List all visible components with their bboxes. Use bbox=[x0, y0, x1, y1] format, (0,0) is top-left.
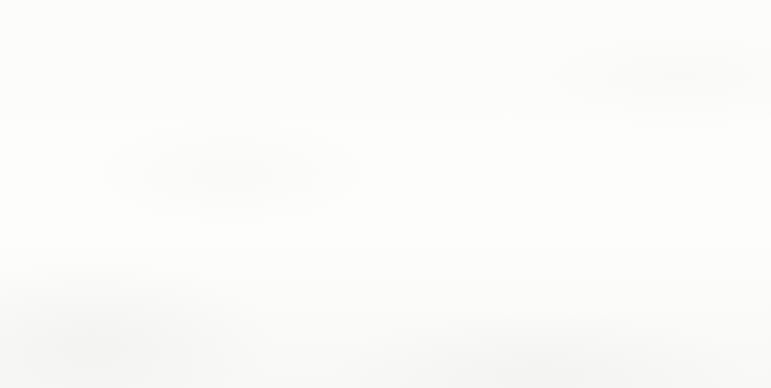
data-label: 89.6 bbox=[275, 12, 313, 34]
x-axis-category-label: 2012 bbox=[468, 323, 511, 345]
data-label: 58.3 bbox=[83, 220, 121, 242]
x-axis-line bbox=[5, 302, 771, 306]
series-line bbox=[102, 39, 683, 49]
series-national-avg bbox=[95, 66, 691, 97]
data-label: 80 bbox=[476, 74, 498, 96]
data-label: 56.3 bbox=[275, 232, 313, 254]
x-axis-category-label: 2008 bbox=[278, 324, 321, 346]
legend-label: Chinese bbox=[589, 360, 659, 382]
data-point-marker bbox=[288, 261, 299, 275]
data-label: 72.9 bbox=[275, 122, 313, 144]
data-label: 89.8 bbox=[83, 12, 121, 34]
data-label: 61.9 bbox=[468, 194, 506, 216]
series-indian bbox=[96, 104, 689, 164]
legend-swatch-diamond-icon bbox=[112, 362, 156, 380]
x-axis bbox=[5, 302, 771, 317]
legend-item-indian[interactable]: Indian bbox=[236, 360, 335, 382]
series-malay bbox=[96, 223, 688, 276]
series-layer bbox=[95, 31, 691, 275]
legend-item-malay[interactable]: Malay bbox=[112, 360, 210, 382]
x-axis-category-label: 2013 bbox=[664, 322, 707, 344]
legend-label: Indian bbox=[283, 360, 335, 382]
legend-swatch-triangle-icon bbox=[361, 362, 405, 380]
data-label: 79.1 bbox=[667, 79, 705, 101]
data-point-marker bbox=[288, 152, 300, 164]
x-axis-category-label: 2004 bbox=[83, 325, 126, 347]
data-point-marker bbox=[481, 104, 493, 116]
series-chinese bbox=[95, 31, 691, 56]
series-line bbox=[102, 74, 683, 91]
chart-legend: MalayIndianNational AvgChinese bbox=[0, 356, 771, 386]
data-point-marker bbox=[677, 230, 688, 244]
data-label: 73.7 bbox=[83, 118, 121, 140]
data-label: 90 bbox=[476, 8, 498, 30]
data-label: 83.2 bbox=[83, 56, 121, 78]
legend-item-chinese[interactable]: Chinese bbox=[542, 360, 659, 382]
data-point-marker bbox=[96, 249, 107, 263]
legend-swatch-x-icon bbox=[542, 362, 586, 380]
data-point-marker bbox=[677, 109, 689, 121]
legend-item-national-avg[interactable]: National Avg bbox=[361, 360, 516, 382]
legend-label: National Avg bbox=[408, 360, 516, 382]
series-line bbox=[102, 110, 683, 158]
legend-label: Malay bbox=[159, 360, 210, 382]
data-label: 85.3 bbox=[468, 39, 506, 61]
data-point-marker bbox=[481, 223, 492, 237]
data-point-marker bbox=[96, 148, 108, 160]
legend-swatch-square-icon bbox=[236, 362, 280, 380]
data-label: 85.3 bbox=[667, 38, 705, 60]
data-label: 90.7 bbox=[667, 3, 705, 25]
data-label: 60.6 bbox=[673, 207, 711, 229]
series-line bbox=[102, 230, 683, 268]
line-chart: 58.356.361.960.673.772.98079.183.283.185… bbox=[0, 0, 771, 388]
data-label: 83.1 bbox=[275, 55, 313, 77]
